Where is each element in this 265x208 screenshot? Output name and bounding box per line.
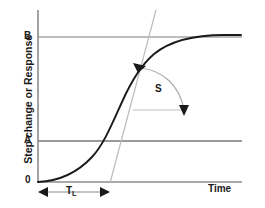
lag-time-arrowhead-right xyxy=(100,187,110,197)
lag-time-arrowhead-left xyxy=(38,187,48,197)
y-tick-label-zero: 0 xyxy=(25,175,31,185)
y-tick-label-a: A xyxy=(24,135,31,145)
y-axis-label: Step change or Response xyxy=(23,24,34,174)
tangent-line xyxy=(110,10,156,183)
slope-annotation-label: S xyxy=(155,84,162,94)
lag-time-annotation-label: TL xyxy=(66,186,77,198)
plot-canvas xyxy=(0,0,265,208)
slope-arc xyxy=(140,68,184,110)
figure-container: Step change or Response B A 0 Time S TL xyxy=(0,0,265,208)
lag-time-subscript: L xyxy=(72,189,77,198)
response-curve xyxy=(38,35,241,182)
y-tick-label-b: B xyxy=(24,31,31,41)
x-axis-label: Time xyxy=(208,184,231,194)
